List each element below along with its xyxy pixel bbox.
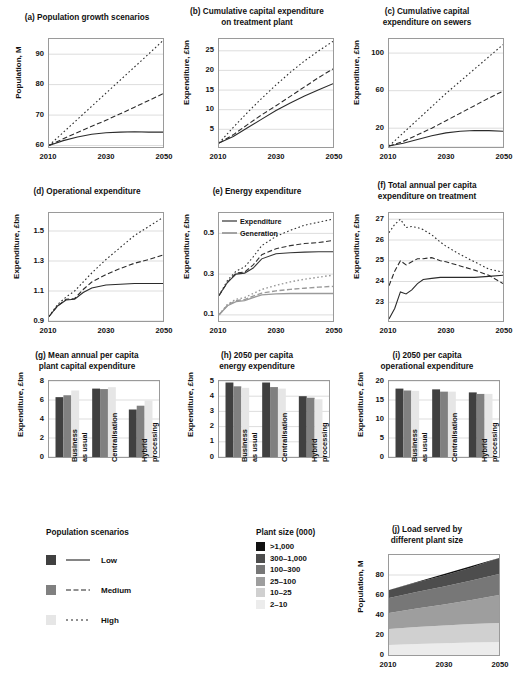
panel-d-xtick-1: 2030 [88,326,124,335]
panel-f-xtick-2: 2050 [486,326,517,335]
swatch-plant-100-300 [256,565,265,574]
panel-c-title-line1: (c) Cumulative capital [344,6,510,17]
legend-plant-label-1: 300–1,000 [270,554,307,563]
legend-row-low: Low [46,545,226,575]
panel-i-xtick-2a: Hybrid [480,439,489,462]
panel-c-plot-area [388,38,504,148]
legend-plant-size-title: Plant size (000) [256,528,356,537]
swatch-plant-gt1000 [256,542,265,551]
swatch-plant-2-10 [256,600,265,609]
ytick-label: 0 [348,452,384,461]
legend-plant-label-0: >1,000 [270,542,294,551]
legend-plant-size-item-3: 25–100 [256,577,356,586]
ytick-label: 1 [178,436,214,445]
panel-h-xtick-0b: as usual [250,432,259,462]
panel-h-title-line1: (h) 2050 per capita [174,350,340,361]
ytick-label: 80 [348,570,384,579]
panel-j-xtick-1: 2030 [426,660,462,669]
ytick-label: 8 [8,376,44,385]
legend-row-high: High [46,605,226,635]
panel-e-title-line1: (e) Energy expenditure [174,186,340,197]
legend-label-high: High [101,616,119,625]
ytick-label: 10 [178,104,214,113]
legend-plant-label-5: 2–10 [270,600,287,609]
ytick-label: 4 [178,391,214,400]
ytick-label: 25 [178,45,214,54]
panel-i-xtick-0b: as usual [420,432,429,462]
legend-plant-label-4: 10–25 [270,588,292,597]
ytick-label: 24 [348,276,384,285]
panel-b: (b) Cumulative capital expenditure on tr… [174,6,340,176]
swatch-high [46,615,56,625]
swatch-plant-25-100 [256,577,265,586]
panel-e-xtick-1: 2030 [258,326,294,335]
ytick-label: 10 [348,414,384,423]
panel-d-ylabel: Expenditure, £bn [12,197,21,297]
line-style-dashed-icon [66,585,92,595]
swatch-low [46,555,56,565]
panel-i-title-line1: (i) 2050 per capita [344,350,510,361]
legend-plant-label-3: 25–100 [270,577,296,586]
panel-e-legend-swatches [222,214,240,246]
ytick-label: 0 [8,452,44,461]
legend-plant-size-item-0: >1,000 [256,542,356,551]
panel-d: (d) Operational expenditure Expenditure,… [4,180,170,350]
panel-d-xtick-0: 2010 [30,326,66,335]
panel-a-xtick-1: 2030 [88,152,124,161]
panel-j-ylabel: Population, M [356,537,365,637]
panel-h: (h) 2050 per capita energy expenditure E… [174,350,340,515]
panel-f-plot-area [388,212,504,322]
panel-h-xtick-2b: processing [320,423,329,462]
ytick-label: 1.3 [8,256,44,265]
panel-a-ylabel: Population, M [14,23,23,123]
legend-population-scenarios: Population scenarios Low Medium High [46,528,226,635]
ytick-label: 1.5 [8,226,44,235]
panel-j-xtick-2: 2050 [482,660,517,669]
ytick-label: 0.9 [8,316,44,325]
ytick-label: 20 [348,123,384,132]
panel-c-ylabel: Expenditure, £bn [352,23,361,123]
ytick-label: 60 [348,85,384,94]
ytick-label: 3 [178,406,214,415]
panel-b-xtick-0: 2010 [200,152,236,161]
panel-g: (g) Mean annual per capita plant capital… [4,350,170,515]
legend-plant-size-item-4: 10–25 [256,588,356,597]
ytick-label: 26 [348,235,384,244]
panel-i: (i) 2050 per capita operational expendit… [344,350,510,515]
ytick-label: 20 [348,376,384,385]
panel-j-plot-area [388,554,500,656]
panel-d-title-line1: (d) Operational expenditure [4,186,170,197]
ytick-label: 0 [178,452,214,461]
panel-f-xtick-0: 2010 [370,326,406,335]
swatch-medium [46,585,56,595]
line-style-solid-icon [66,555,92,565]
ytick-label: 90 [8,49,44,58]
panel-g-title-line1: (g) Mean annual per capita [4,350,170,361]
line-style-dotted-icon [66,615,92,625]
panel-i-xtick-2b: processing [490,423,499,462]
ytick-label: 2 [178,421,214,430]
panel-h-xtick-0a: Business [240,429,249,462]
panel-j-title-line1: (j) Load served by [344,524,510,535]
panel-c-title-line2: expenditure on sewers [344,17,510,28]
legend-plant-size-item-1: 300–1,000 [256,554,356,563]
panel-f-title-line1: (f) Total annual per capita [344,180,510,191]
panel-b-title-line1: (b) Cumulative capital expenditure [174,6,340,17]
panel-i-xtick-1: Centralisation [450,413,459,462]
panel-b-plot-area [218,38,334,148]
ytick-label: 20 [348,630,384,639]
ytick-label: 15 [178,85,214,94]
panel-e-legend-label-generation: Generation [240,229,278,238]
panel-e-legend-label-expenditure: Expenditure [240,217,282,226]
ytick-label: 0.5 [178,228,214,237]
ytick-label: 6 [8,395,44,404]
panel-a-xtick-0: 2010 [30,152,66,161]
panel-c-xtick-1: 2030 [428,152,464,161]
ytick-label: 0 [348,142,384,151]
ytick-label: 5 [178,376,214,385]
panel-i-xtick-0a: Business [410,429,419,462]
panel-c-xtick-0: 2010 [370,152,406,161]
panel-c: (c) Cumulative capital expenditure on se… [344,6,510,176]
panel-g-xtick-0b: as usual [80,432,89,462]
